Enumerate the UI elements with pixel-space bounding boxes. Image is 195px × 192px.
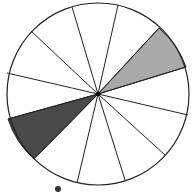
spoke-line (31, 31, 98, 94)
segmented-circle-diagram (0, 0, 195, 192)
spoke-line (98, 94, 188, 115)
spoke-line (72, 7, 98, 94)
caption (55, 184, 64, 192)
spoke-line (7, 73, 98, 94)
light-gray-segment (98, 28, 186, 94)
caption-bullet-icon (55, 186, 61, 192)
center-point (96, 92, 100, 96)
